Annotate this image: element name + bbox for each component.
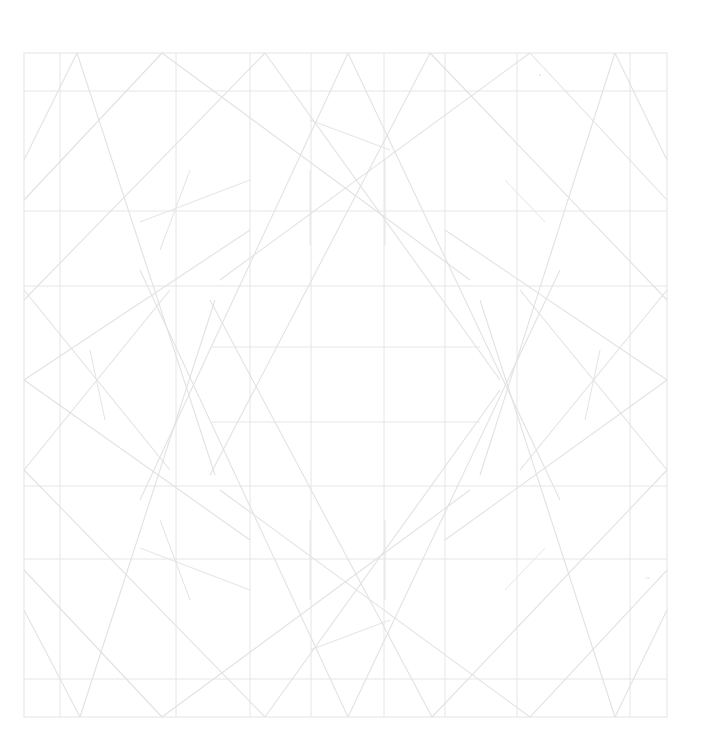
construction-line [24,53,77,160]
construction-segment [140,548,250,590]
construction-line [24,570,162,717]
construction-line [480,53,615,475]
construction-segment [310,620,390,650]
construction-diagram [0,0,705,755]
construction-line [24,380,250,540]
construction-line [80,300,215,717]
construction-line [432,470,667,717]
construction-segment [140,180,250,222]
construction-segment [310,120,390,150]
stray-mark [539,74,541,76]
construction-line [480,300,615,717]
construction-line [162,490,470,717]
vertical-grid-lines [60,53,630,717]
construction-line [445,380,667,540]
construction-line [445,230,667,380]
construction-line [210,300,432,717]
construction-line [265,53,500,380]
construction-segment [160,520,190,600]
construction-line [430,53,667,300]
construction-segment [505,180,545,222]
construction-line [24,610,80,717]
construction-line [24,53,162,200]
construction-segment [160,170,190,250]
construction-line [140,270,348,717]
construction-line [210,53,430,475]
construction-line [348,270,560,717]
construction-line [162,53,470,280]
construction-line [220,53,530,280]
diagonal-construction-lines [24,53,667,717]
construction-line [77,53,215,475]
construction-line [348,53,560,500]
construction-line [615,610,667,717]
construction-line [265,390,500,717]
construction-line [220,490,530,717]
construction-line [615,53,667,160]
construction-line [24,230,250,380]
outer-frame [24,53,667,717]
construction-segment [505,548,545,590]
construction-line [140,53,348,500]
